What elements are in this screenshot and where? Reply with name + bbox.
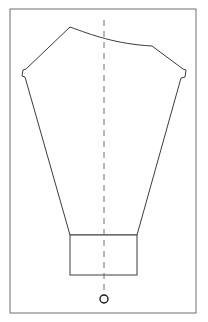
grain-direction-circle-icon	[100, 295, 108, 303]
pattern-diagram-canvas	[0, 0, 208, 322]
pattern-drawing	[0, 0, 208, 322]
